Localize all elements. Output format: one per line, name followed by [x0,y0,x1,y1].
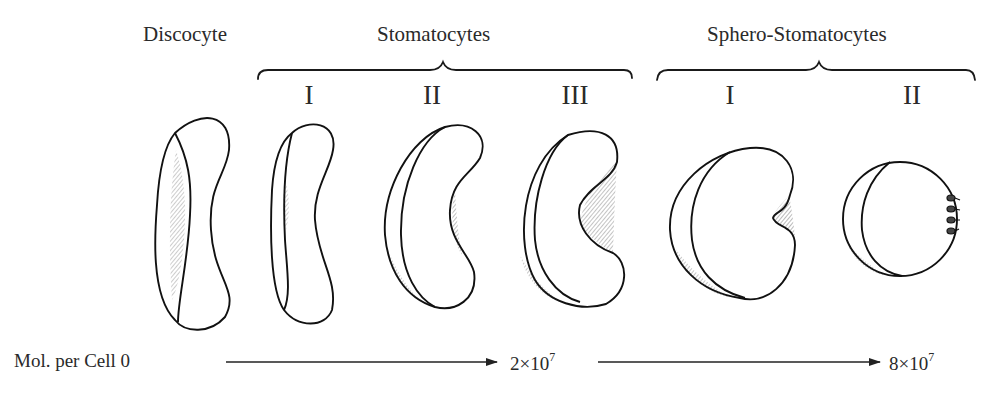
stomatocyte-1-cell [271,124,334,323]
axis-end-exponent: 7 [928,350,934,364]
axis-title: Mol. per Cell [14,350,116,371]
axis-label: Mol. per Cell 0 [14,350,130,372]
axis-end-value: 8×107 [889,350,934,375]
stomatocytes-brace [258,62,632,79]
sphero-stomatocytes-brace [657,62,975,80]
axis-start-value: 0 [121,350,131,371]
axis-end-base: 8×10 [889,353,928,374]
discocyte-cell [155,118,229,330]
sphero-stomatocyte-1-cell [670,148,795,300]
stomatocyte-3-cell [520,131,624,307]
sphero-stomatocyte-2-cell [843,162,960,276]
stomatocyte-2-cell [385,125,483,308]
axis-mid-exponent: 7 [549,350,555,364]
axis-mid-value: 2×107 [510,350,555,375]
axis-mid-base: 2×10 [510,353,549,374]
cell-shape-illustration [0,0,990,394]
